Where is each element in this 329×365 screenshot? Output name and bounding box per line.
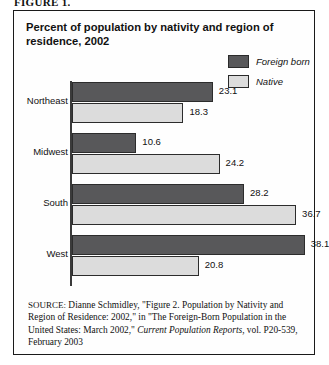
figure-caption: FIGURE 1. [14,0,70,6]
chart-plot-area: Northeast 23.1 18.3 Midwest 10.6 24.2 So… [14,73,314,289]
source-citation: SOURCE: Dianne Schmidley, "Figure 2. Pop… [28,299,302,349]
bar-south-native [72,205,297,225]
bar-group-midwest: Midwest 10.6 24.2 [14,132,314,178]
bar-west-foreign-born [72,235,305,255]
bar-group-northeast: Northeast 23.1 18.3 [14,81,314,127]
bar-value-west-native: 20.8 [205,259,224,270]
bar-south-foreign-born [72,184,245,204]
bar-group-west: West 38.1 20.8 [14,234,314,280]
category-label-south: South [0,197,68,208]
bar-midwest-foreign-born [72,133,137,153]
bar-value-midwest-foreign-born: 10.6 [142,136,161,147]
bar-value-northeast-native: 18.3 [189,106,208,117]
bar-west-native [72,256,199,276]
bar-group-south: South 28.2 36.7 [14,183,314,229]
bar-value-west-foreign-born: 38.1 [311,238,329,249]
bar-value-northeast-foreign-born: 23.1 [219,85,238,96]
figure-container: Percent of population by nativity and re… [13,10,315,355]
chart-title: Percent of population by nativity and re… [26,20,298,48]
source-prefix: SOURCE: [28,300,66,310]
bar-northeast-native [72,103,184,123]
source-italic-1: Current Population Reports [137,325,242,335]
legend-swatch-foreign-born [228,55,249,68]
bar-northeast-foreign-born [72,82,213,102]
category-label-northeast: Northeast [0,95,68,106]
category-label-midwest: Midwest [0,146,68,157]
bar-value-south-native: 36.7 [302,208,321,219]
legend-label-foreign-born: Foreign born [256,56,310,67]
bar-value-south-foreign-born: 28.2 [250,187,269,198]
bar-value-midwest-native: 24.2 [226,157,245,168]
category-label-west: West [0,248,68,259]
legend-item-foreign-born: Foreign born [228,52,310,70]
bar-midwest-native [72,154,220,174]
